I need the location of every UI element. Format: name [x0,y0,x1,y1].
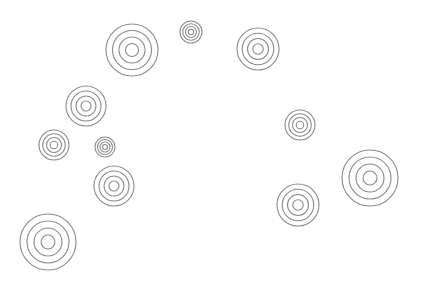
target-1[interactable] [106,24,158,76]
target-9[interactable] [342,150,398,206]
target-11[interactable] [20,214,76,270]
target-hit-area[interactable] [66,86,106,126]
target-hit-area[interactable] [285,110,315,140]
target-hit-area[interactable] [39,130,69,160]
target-hit-area[interactable] [237,28,279,70]
target-8[interactable] [285,110,315,140]
target-10[interactable] [277,184,319,226]
target-hit-area[interactable] [277,184,319,226]
target-hit-area[interactable] [20,214,76,270]
target-hit-area[interactable] [95,137,115,157]
targets-canvas [0,0,421,286]
target-3[interactable] [237,28,279,70]
target-6[interactable] [95,137,115,157]
target-play-area [0,0,421,286]
target-7[interactable] [94,166,134,206]
target-hit-area[interactable] [106,24,158,76]
target-hit-area[interactable] [180,21,202,43]
target-5[interactable] [39,130,69,160]
target-4[interactable] [66,86,106,126]
target-hit-area[interactable] [94,166,134,206]
target-2[interactable] [180,21,202,43]
target-hit-area[interactable] [342,150,398,206]
